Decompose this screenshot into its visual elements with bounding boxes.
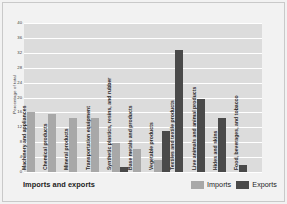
legend-label: Imports [207, 180, 231, 189]
bar-groups: Machinery and appliancesChemical product… [24, 23, 262, 172]
bar-imports [27, 112, 35, 172]
y-axis-tick-label: 32 [17, 51, 22, 55]
x-axis-category-label: Machinery and appliances [22, 105, 27, 170]
x-axis-category-label: Vegetable products [149, 122, 154, 170]
y-axis-tick-label: 0 [20, 170, 22, 174]
bar-exports [218, 118, 226, 172]
x-axis-category-label: Textiles and textile products [170, 100, 175, 170]
bar-exports [175, 50, 183, 172]
x-axis-category-label: Hides and skins [213, 130, 218, 170]
y-axis-tick-label: 36 [17, 36, 22, 40]
y-axis-tick-label: 24 [17, 80, 22, 84]
bar-exports [197, 99, 205, 172]
x-axis-category-label: Live animals and animal products [191, 87, 196, 170]
x-axis-category-label: Synthetic plastics, resins, and rubber [107, 78, 112, 170]
legend-label: Exports [252, 180, 277, 189]
chart-legend: ImportsExports [191, 180, 277, 189]
y-axis-tick-label: 28 [17, 66, 22, 70]
x-axis-title: Imports and exports [23, 180, 95, 189]
bar-imports [112, 143, 120, 172]
x-axis-category-label: Food, beverages, and tobacco [234, 95, 239, 170]
plot-area: Machinery and appliancesChemical product… [24, 23, 262, 172]
x-axis-category-label: Mineral products [64, 128, 69, 170]
y-axis-tick-label: 20 [17, 95, 22, 99]
bar-group: Food, beverages, and tobacco [239, 23, 260, 172]
x-axis-category-label: Base metals and products [128, 105, 133, 170]
bar-imports [133, 149, 141, 172]
bar-exports [239, 165, 247, 172]
legend-item: Exports [236, 180, 277, 189]
bar-imports [91, 118, 99, 172]
bar-imports [154, 160, 162, 172]
imports-swatch [191, 181, 204, 189]
x-axis-category-label: Transportation equipment [85, 106, 90, 170]
y-axis-tick-label: 40 [17, 21, 22, 25]
exports-swatch [236, 181, 249, 189]
gridline [24, 172, 262, 173]
chart-figure: Percentage of total 4036322824201612840 … [0, 0, 287, 204]
x-axis-category-label: Chemical products [43, 123, 48, 170]
bar-imports [48, 114, 56, 172]
bar-imports [69, 118, 77, 172]
legend-item: Imports [191, 180, 231, 189]
